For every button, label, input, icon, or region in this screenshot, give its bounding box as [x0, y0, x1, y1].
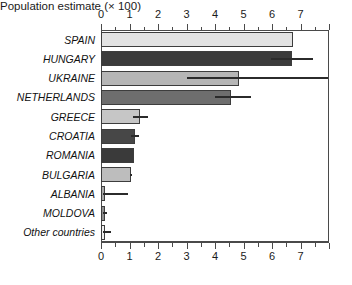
bar [101, 90, 231, 105]
category-label: UKRAINE [0, 72, 95, 84]
axis-line [101, 30, 329, 31]
x-axis-title: Population estimate (× 100) [0, 0, 141, 12]
category-label: MOLDOVA [0, 207, 95, 219]
minor-tick [115, 243, 116, 247]
minor-tick [286, 243, 287, 247]
x-tick-label: 7 [291, 250, 311, 262]
bar [101, 148, 134, 163]
x-tick-label: 2 [148, 8, 168, 20]
major-tick [244, 24, 245, 30]
major-tick [329, 24, 330, 30]
x-tick-label: 5 [234, 8, 254, 20]
error-bar-line [215, 96, 251, 98]
x-tick-label: 0 [91, 250, 111, 262]
category-label: SPAIN [0, 34, 95, 46]
major-tick [301, 243, 302, 249]
minor-tick [115, 27, 116, 31]
major-tick [158, 24, 159, 30]
x-tick-label: 4 [205, 8, 225, 20]
major-tick [329, 243, 330, 249]
category-label: HUNGARY [0, 53, 95, 65]
minor-tick [229, 243, 230, 247]
minor-tick [144, 27, 145, 31]
category-label: CROATIA [0, 130, 95, 142]
major-tick [130, 24, 131, 30]
category-label: ROMANIA [0, 149, 95, 161]
error-bar-line [131, 135, 140, 137]
minor-tick [286, 27, 287, 31]
category-label: ALBANIA [0, 188, 95, 200]
x-tick-label: 5 [234, 250, 254, 262]
error-bar-line [103, 231, 111, 233]
minor-tick [201, 27, 202, 31]
bar [101, 167, 131, 182]
x-tick-label: 7 [291, 8, 311, 20]
minor-tick [315, 27, 316, 31]
minor-tick [229, 27, 230, 31]
minor-tick [172, 27, 173, 31]
bar-chart: 01234567 01234567 SPAINHUNGARYUKRAINENET… [0, 0, 352, 285]
major-tick [187, 243, 188, 249]
major-tick [272, 24, 273, 30]
major-tick [101, 24, 102, 30]
error-bar-line [103, 212, 107, 214]
major-tick [301, 24, 302, 30]
major-tick [101, 243, 102, 249]
error-bar-line [187, 77, 328, 79]
bar [101, 32, 293, 47]
x-tick-label: 4 [205, 250, 225, 262]
category-label: BULGARIA [0, 169, 95, 181]
x-tick-label: 6 [262, 8, 282, 20]
category-label: Other countries [0, 226, 95, 238]
minor-tick [315, 243, 316, 247]
category-label: GREECE [0, 111, 95, 123]
minor-tick [258, 27, 259, 31]
minor-tick [172, 243, 173, 247]
x-tick-label: 6 [262, 250, 282, 262]
minor-tick [201, 243, 202, 247]
major-tick [215, 243, 216, 249]
x-tick-label: 2 [148, 250, 168, 262]
error-bar-line [271, 58, 314, 60]
minor-tick [144, 243, 145, 247]
major-tick [187, 24, 188, 30]
x-tick-label: 3 [177, 250, 197, 262]
major-tick [215, 24, 216, 30]
error-bar-line [133, 116, 148, 118]
bar [101, 51, 292, 66]
major-tick [130, 243, 131, 249]
error-bar-line [103, 193, 128, 195]
category-label: NETHERLANDS [0, 91, 95, 103]
major-tick [158, 243, 159, 249]
major-tick [272, 243, 273, 249]
x-tick-label: 1 [120, 250, 140, 262]
major-tick [244, 243, 245, 249]
minor-tick [258, 243, 259, 247]
error-bar-line [130, 174, 133, 176]
x-tick-label: 3 [177, 8, 197, 20]
